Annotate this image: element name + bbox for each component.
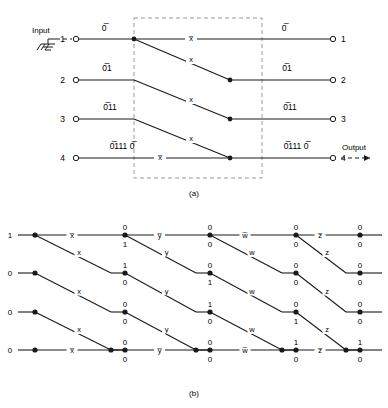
panel-b-stage1-label-diagonal-2: x <box>77 287 81 296</box>
panel-a-node <box>228 78 233 83</box>
panel-b-stage1-diagonal-3 <box>35 312 111 350</box>
panel-b-stage4-merge-node <box>343 347 348 352</box>
output-terminal-1[interactable] <box>330 36 335 41</box>
panel-b-input-value-3: 0 <box>8 308 13 317</box>
panel-b-stage1-diagonal-1 <box>35 235 111 273</box>
panel-b-stage3-value-upper-2: 0 <box>294 261 299 270</box>
caption-b: (b) <box>189 389 199 398</box>
panel-b-stage3-label-horizontal-top: w̅ <box>241 231 248 240</box>
dashed-stage-box <box>134 18 262 178</box>
panel-a-right-state-3: 0̅11 <box>283 102 297 112</box>
panel-b-stage4-value-upper-3: 0 <box>358 300 363 309</box>
panel-a-trellis-diagram: Input Output 1 2 3 4 1 2 3 4 0̅ 0̅1 0̅11… <box>0 0 388 200</box>
panel-b-stage1-merge-node <box>108 347 113 352</box>
panel-b-stage2-label-diagonal-3: y <box>165 325 169 334</box>
panel-b-stage4-value-upper-1: 0 <box>358 223 363 232</box>
panel-b-stage3-diagonal-1 <box>210 235 282 273</box>
panel-b-stage1-value-upper-2: 1 <box>123 261 128 270</box>
output-terminal-number-4: 4 <box>341 153 346 163</box>
panel-b-stage2-value-upper-1: 0 <box>208 223 213 232</box>
panel-b-stage1-value-lower-3: 0 <box>123 317 128 326</box>
panel-b-stage1-diagonal-2 <box>35 273 111 312</box>
input-terminal-1[interactable] <box>73 36 78 41</box>
panel-a-left-state-1: 0̅ <box>102 23 110 33</box>
panel-b-stage2-diagonal-3 <box>125 312 196 350</box>
ground-icon <box>37 39 56 50</box>
input-terminal-3[interactable] <box>73 116 78 121</box>
panel-a-right-state-4: 0̅111 0̅ <box>284 141 312 151</box>
panel-b-stage4-label-diagonal-1: z <box>325 248 329 257</box>
output-terminal-number-3: 3 <box>341 114 346 124</box>
input-terminal-number-2: 2 <box>60 75 65 85</box>
panel-a-right-state-2: 0̅1 <box>282 63 292 73</box>
panel-b-stage3-value-lower-4: 0 <box>294 355 299 364</box>
panel-b-stage2-label-diagonal-2: y <box>165 287 169 296</box>
panel-b-stage4-value-lower-3: 0 <box>358 317 363 326</box>
input-label: Input <box>32 26 51 35</box>
output-label: Output <box>342 143 367 152</box>
panel-b-stage4-value-upper-4: 1 <box>358 338 363 347</box>
panel-b-stage2-label-diagonal-1: y <box>165 248 169 257</box>
figure-root: Input Output 1 2 3 4 1 2 3 4 0̅ 0̅1 0̅11… <box>0 0 388 408</box>
panel-b-stage1-value-lower-4: 0 <box>123 355 128 364</box>
panel-b-stage3-merge-node <box>279 347 284 352</box>
panel-a-diagonal-3 <box>134 119 230 158</box>
panel-b-stage3-value-lower-3: 1 <box>294 317 299 326</box>
input-terminal-number-3: 3 <box>60 114 65 124</box>
output-terminal-3[interactable] <box>330 116 335 121</box>
panel-b-stage1-label-diagonal-1: x <box>77 248 81 257</box>
panel-b-stage3-label-diagonal-3: w <box>248 325 255 334</box>
panel-b-stage2-merge-node <box>193 347 198 352</box>
caption-a: (a) <box>189 189 199 198</box>
panel-b-stage3-value-lower-2: 0 <box>294 278 299 287</box>
output-terminal-2[interactable] <box>330 77 335 82</box>
panel-b-stage4-label-diagonal-3: z <box>325 325 329 334</box>
panel-b-stage3-diagonal-3 <box>210 312 282 350</box>
panel-b-stage2-value-lower-2: 1 <box>208 278 213 287</box>
panel-b-stage2-value-upper-2: 0 <box>208 261 213 270</box>
panel-b-stage1-value-upper-4: 0 <box>123 338 128 347</box>
input-terminal-number-4: 4 <box>60 153 65 163</box>
panel-a-node <box>228 156 233 161</box>
panel-b-stage2-diagonal-1 <box>125 235 196 273</box>
panel-b-stage2-value-lower-4: 0 <box>208 355 213 364</box>
panel-b-stage4-diagonal-1 <box>296 235 346 273</box>
panel-b-stage3-value-upper-1: 0 <box>294 223 299 232</box>
input-terminal-2[interactable] <box>73 77 78 82</box>
panel-a-diagonal-edge-label-1: x <box>189 55 193 64</box>
panel-b-stage1-label-diagonal-3: x <box>77 325 81 334</box>
panel-a-diagonal-edge-label-2: x <box>189 95 193 104</box>
input-terminal-number-1: 1 <box>60 34 65 44</box>
panel-b-stage3-value-lower-1: 0 <box>294 240 299 249</box>
panel-b-stage4-value-upper-2: 0 <box>358 261 363 270</box>
panel-b-stage4-diagonal-3 <box>296 312 346 350</box>
panel-b-stage3-value-upper-4: 1 <box>294 338 299 347</box>
panel-b-stage1-value-upper-1: 0 <box>123 223 128 232</box>
panel-b-stage4-diagonal-2 <box>296 273 346 312</box>
panel-b-input-value-4: 0 <box>8 346 13 355</box>
panel-b-trellis-diagram: 1000x̅x̅xxx01100000y̅y̅yyy00011000w̅w̅ww… <box>0 200 388 408</box>
panel-a-left-state-3: 0̅11 <box>103 102 117 112</box>
panel-a-node <box>132 37 137 42</box>
panel-b-input-value-1: 1 <box>8 231 13 240</box>
panel-b-stage3-diagonal-2 <box>210 273 282 312</box>
panel-b-stage4-value-lower-1: 0 <box>358 240 363 249</box>
output-terminal-number-1: 1 <box>341 34 346 44</box>
panel-b-input-value-2: 0 <box>8 269 13 278</box>
panel-b-stage1-value-lower-2: 0 <box>123 278 128 287</box>
panel-b-stage2-value-lower-1: 0 <box>208 240 213 249</box>
output-terminal-4[interactable] <box>330 155 335 160</box>
panel-b-stage2-value-upper-4: 0 <box>208 338 213 347</box>
panel-b-stage3-label-diagonal-1: w <box>248 248 255 257</box>
panel-a-diagonal-2 <box>134 80 230 119</box>
panel-b-stage3-label-horizontal-bottom: w̅ <box>241 346 248 355</box>
panel-a-diagonal-edge-label-3: x <box>189 134 193 143</box>
panel-b-stage4-value-lower-4: 0 <box>358 355 363 364</box>
panel-b-stage2-value-upper-3: 1 <box>208 300 213 309</box>
panel-a-right-state-1: 0̅ <box>282 23 290 33</box>
panel-a-node <box>228 117 233 122</box>
input-terminal-4[interactable] <box>73 155 78 160</box>
panel-b-stage2-diagonal-2 <box>125 273 196 312</box>
panel-b-stage4-value-lower-2: 0 <box>358 278 363 287</box>
panel-a-left-state-4: 0̅111 0̅ <box>110 141 138 151</box>
